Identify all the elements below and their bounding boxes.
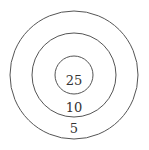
middle-ring-label: 10 bbox=[54, 101, 94, 115]
outer-ring-label: 5 bbox=[54, 122, 94, 136]
inner-ring-label: 25 bbox=[54, 74, 94, 88]
